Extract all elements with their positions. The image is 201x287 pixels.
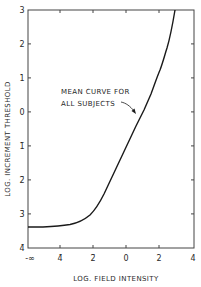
- y-tick-label: 3̄: [19, 210, 24, 219]
- y-tick-label: 1: [19, 74, 24, 83]
- x-tick-label: 0: [123, 254, 128, 263]
- mean-curve-line: [28, 10, 175, 227]
- y-tick-labels: 3 2 1 0 1̄ 2̄ 3̄ 4̄: [19, 6, 24, 253]
- plot-frame: [28, 10, 194, 248]
- y-tick-label: 1̄: [19, 142, 24, 151]
- x-tick-label: 2: [156, 254, 161, 263]
- y-tick-label: 4̄: [19, 244, 24, 253]
- annotation-line-2: ALL SUBJECTS: [61, 100, 115, 108]
- x-tick-label: 4̄: [57, 254, 62, 263]
- y-tick-label: 0: [19, 108, 24, 117]
- y-tick-label: 2̄: [19, 176, 24, 185]
- annotation-arrow-icon: [121, 102, 134, 111]
- x-tick-label: -∞: [25, 254, 35, 263]
- y-tick-label: 3: [19, 6, 24, 15]
- x-tick-labels: -∞ 4̄ 2̄ 0 2 4: [25, 254, 195, 263]
- threshold-chart: 3 2 1 0 1̄ 2̄ 3̄ 4̄ -∞ 4̄ 2̄ 0 2 4 LOG. …: [0, 0, 201, 287]
- x-axis-label: LOG. FIELD INTENSITY: [73, 275, 159, 283]
- annotation-line-1: MEAN CURVE FOR: [61, 88, 130, 96]
- y-tick-label: 2: [19, 40, 24, 49]
- y-axis-label: LOG. INCREMENT THRESHOLD: [4, 81, 12, 197]
- x-tick-label: 2̄: [90, 254, 95, 263]
- x-tick-label: 4: [190, 254, 195, 263]
- curve-annotation: MEAN CURVE FOR ALL SUBJECTS: [61, 88, 136, 114]
